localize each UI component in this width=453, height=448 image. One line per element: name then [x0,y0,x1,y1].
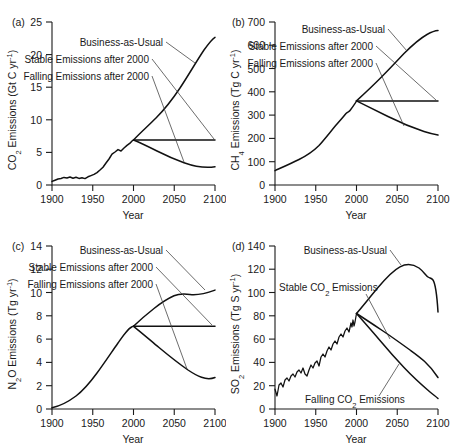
xtick-1900: 1900 [40,417,64,429]
emissions-scenarios-figure: (a) CO2 Emissions (Gt C yr-1) 0 5 10 15 … [0,0,453,448]
ytick-3: 300 [247,109,265,121]
panel-b-label: (b) [232,16,245,28]
xtick-1950: 1950 [81,417,105,429]
xtick-1900: 1900 [263,417,287,429]
ytick-7: 140 [247,240,265,252]
xtick-1950: 1950 [304,193,328,205]
panel-a-annotation-stable: Stable Emissions after 2000 [24,54,149,65]
y-tail: ) [229,274,241,278]
svg-text:CO2 Emissions (Gt C yr-1): CO2 Emissions (Gt C yr-1) [5,50,23,171]
panel-b-annotation-falling: Falling Emissions after 2000 [247,58,373,69]
ytick-2: 10 [30,114,42,126]
xtick-2100: 2100 [203,417,226,429]
panel-d-leader-bau [390,250,401,265]
panel-d-plot: (d) SO2 Emissions (Tg S yr-1) 0 20 40 60… [227,224,453,448]
panel-a-x-axis-title: Year [122,209,144,221]
ytick-0: 0 [36,403,42,415]
ytick-0: 0 [259,179,265,191]
ytick-0: 0 [259,403,265,415]
panel-a-leader-bau [166,42,195,63]
panel-c-leader-stable [156,267,212,325]
panel-c-plot: (c) N2O Emissions (Tg yr-1) 0 2 4 6 8 10… [0,224,226,448]
panel-b-leader-falling [376,63,404,126]
y-species: SO [229,379,241,394]
panel-a-y-ticks: 0 5 10 15 20 25 [30,16,52,191]
panel-d-y-ticks: 0 20 40 60 80 100 120 140 [247,240,275,415]
ytick-3: 60 [253,333,265,345]
ytick-1: 20 [253,380,265,392]
ytick-4: 400 [247,86,265,98]
panel-b-annotation-bau: Business-as-Usual [302,24,385,35]
ytick-5: 100 [247,287,265,299]
ytick-1: 5 [36,146,42,158]
xtick-2000: 2000 [345,417,369,429]
panel-d-leader-stable [366,294,390,339]
ytick-3: 15 [30,81,42,93]
panel-c-bau-curve [134,290,216,326]
ytick-5: 25 [30,16,42,28]
panel-d-x-ticks: 1900 1950 2000 2050 2100 [263,409,450,429]
panel-d-historical-curve [275,314,357,397]
y-rest: O Emissions (Tg yr [6,288,18,378]
panel-c-annotation-stable: Stable Emissions after 2000 [28,262,153,273]
panel-c-leader-bau [166,250,205,290]
panel-b-leader-bau [388,29,407,51]
xtick-1900: 1900 [263,193,287,205]
panel-a-label: (a) [12,16,25,28]
ytick-2: 200 [247,132,265,144]
ytick-7: 700 [247,16,265,28]
panel-a-annotation-bau: Business-as-Usual [80,37,163,48]
panel-b-plot: (b) CH4 Emissions (Tg C yr-1) 0 100 200 … [227,0,453,224]
y-tail: ) [6,278,18,282]
ytick-2: 4 [36,356,42,368]
y-sup: -1 [5,282,14,289]
panel-a-historical-curve [52,140,134,181]
panel-c-x-axis-title: Year [122,433,144,445]
panel-d-annotation-falling: Falling CO2 Emissions [305,394,405,410]
xtick-2000: 2000 [122,417,146,429]
panel-b-historical-curve [275,101,357,171]
panel-b-ch4: (b) CH4 Emissions (Tg C yr-1) 0 100 200 … [227,0,453,224]
xtick-2050: 2050 [163,193,187,205]
y-tail: ) [229,49,241,53]
panel-b-falling-curve [357,101,439,135]
panel-a-co2: (a) CO2 Emissions (Gt C yr-1) 0 5 10 15 … [0,0,226,224]
y-rest: Emissions (Tg C yr [229,59,241,151]
svg-text:CH4 Emissions (Tg C yr-1): CH4 Emissions (Tg C yr-1) [228,49,246,170]
ytick-3: 6 [36,333,42,345]
panel-c-annotation-bau: Business-as-Usual [80,245,163,256]
panel-c-x-ticks: 1900 1950 2000 2050 2100 [40,409,226,429]
panel-d-falling-curve [357,314,439,399]
y-sup: -1 [5,53,14,60]
panel-c-n2o: (c) N2O Emissions (Tg yr-1) 0 2 4 6 8 10… [0,224,226,448]
svg-text:SO2 Emissions (Tg S yr-1): SO2 Emissions (Tg S yr-1) [228,274,246,395]
y-species: CO [6,155,18,171]
panel-b-x-ticks: 1900 1950 2000 2050 2100 [263,185,450,205]
ytick-0: 0 [36,179,42,191]
xtick-2050: 2050 [386,417,410,429]
panel-c-annotation-falling: Falling Emissions after 2000 [27,279,153,290]
panel-a-leader-stable [152,59,214,139]
panel-b-y-axis-title: CH4 Emissions (Tg C yr-1) [228,49,246,170]
panel-d-stable-curve [357,314,439,378]
panel-c-historical-curve [52,326,134,408]
panel-d-annotation-bau: Business-as-Usual [304,245,387,256]
panel-a-falling-curve [134,140,216,167]
ytick-1: 2 [36,380,42,392]
xtick-2100: 2100 [426,417,450,429]
panel-a-y-axis-title: CO2 Emissions (Gt C yr-1) [5,50,23,171]
xtick-2000: 2000 [345,193,369,205]
panel-d-axes [275,246,438,409]
svg-text:N2O Emissions (Tg yr-1): N2O Emissions (Tg yr-1) [5,278,23,389]
panel-d-so2: (d) SO2 Emissions (Tg S yr-1) 0 20 40 60… [227,224,453,448]
panel-c-label: (c) [12,240,24,252]
xtick-2050: 2050 [163,417,187,429]
panel-d-annotation-stable: Stable CO2 Emissions [279,282,378,298]
panel-b-x-axis-title: Year [345,209,367,221]
panel-d-label: (d) [232,240,245,252]
panel-a-x-ticks: 1900 1950 2000 2050 2100 [40,185,226,205]
panel-a-annotation-falling: Falling Emissions after 2000 [23,71,149,82]
ytick-1: 100 [247,156,265,168]
xtick-2000: 2000 [122,193,146,205]
ytick-4: 80 [253,310,265,322]
